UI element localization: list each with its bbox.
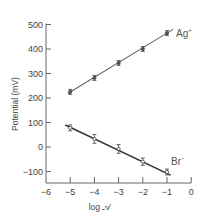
y-tick-label: 0 xyxy=(38,142,43,152)
x-tick-label: −6 xyxy=(41,187,51,197)
x-axis-title: log 𝒜 xyxy=(89,202,113,212)
x-tick-label: −3 xyxy=(113,187,123,197)
data-point xyxy=(117,147,120,150)
y-tick-label: 300 xyxy=(28,69,43,79)
data-point xyxy=(165,170,168,173)
data-point xyxy=(69,126,72,129)
data-point xyxy=(141,47,144,50)
series-label-ag: Ag+ xyxy=(176,27,192,39)
potential-vs-log-activity-chart: 5004003002001000−100−6−5−4−3−2−10 log 𝒜P… xyxy=(0,0,206,218)
series-br xyxy=(65,125,170,175)
y-tick-label: 200 xyxy=(28,93,43,103)
data-point xyxy=(141,160,144,163)
plot-area xyxy=(65,29,173,175)
x-tick-label: −2 xyxy=(138,187,148,197)
data-point xyxy=(117,61,120,64)
fit-line xyxy=(68,29,173,93)
x-tick-label: −4 xyxy=(89,187,99,197)
y-tick-label: −100 xyxy=(23,167,43,177)
data-point xyxy=(165,31,168,34)
x-tick-label: 0 xyxy=(189,187,194,197)
data-point xyxy=(93,76,96,79)
x-tick-label: −5 xyxy=(65,187,75,197)
y-tick-label: 100 xyxy=(28,118,43,128)
y-tick-label: 400 xyxy=(28,44,43,54)
y-axis-title: Potential (mV) xyxy=(10,77,20,131)
series-label-br: Br− xyxy=(171,155,185,167)
series-ag xyxy=(68,29,173,94)
x-tick-label: −1 xyxy=(162,187,172,197)
data-point xyxy=(93,137,96,140)
y-tick-label: 500 xyxy=(28,20,43,30)
data-point xyxy=(69,90,72,93)
